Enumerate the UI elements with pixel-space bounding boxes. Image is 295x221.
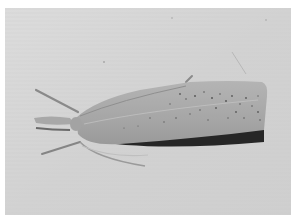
moth-photograph (5, 8, 291, 215)
moth-head (70, 117, 82, 131)
image-frame (0, 0, 295, 221)
